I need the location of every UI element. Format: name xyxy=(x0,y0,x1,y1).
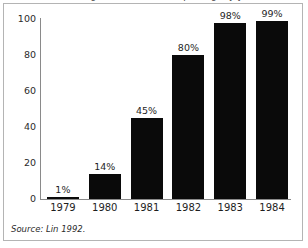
source-note: Source: Lin 1992. xyxy=(11,224,85,234)
bar-value-label: 98% xyxy=(206,11,254,21)
bar xyxy=(131,118,163,199)
x-tick-label: 1981 xyxy=(123,203,171,213)
bar-value-label: 80% xyxy=(164,43,212,53)
x-tick-label: 1980 xyxy=(81,203,129,213)
y-tick-label: 40 xyxy=(2,122,36,132)
bar xyxy=(47,197,79,199)
figure-container: Percentage of households reporting, by y… xyxy=(0,0,308,248)
bar-value-label: 1% xyxy=(39,185,87,195)
y-tick-label: 20 xyxy=(2,158,36,168)
x-tick-label: 1979 xyxy=(39,203,87,213)
bar-value-label: 45% xyxy=(123,106,171,116)
bar-value-label: 14% xyxy=(81,162,129,172)
y-tick-label: 80 xyxy=(2,50,36,60)
bar xyxy=(172,55,204,199)
plot-area: 020406080100 1%197914%198045%198180%1982… xyxy=(0,0,308,248)
bar xyxy=(214,23,246,199)
bar xyxy=(89,174,121,199)
x-tick-label: 1982 xyxy=(164,203,212,213)
y-axis-line xyxy=(40,18,41,200)
bar-value-label: 99% xyxy=(248,9,296,19)
y-tick-label: 60 xyxy=(2,86,36,96)
bar xyxy=(256,21,288,199)
y-tick-label: 100 xyxy=(2,14,36,24)
x-tick-label: 1984 xyxy=(248,203,296,213)
x-tick-label: 1983 xyxy=(206,203,254,213)
x-axis-line xyxy=(40,199,291,200)
y-tick-label: 0 xyxy=(2,194,36,204)
y-axis-tick-labels: 020406080100 xyxy=(0,0,36,248)
